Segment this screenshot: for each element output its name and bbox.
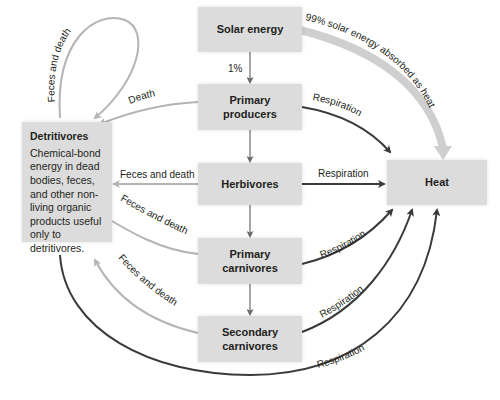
label-producers-respiration: Respiration bbox=[312, 91, 364, 118]
node-secondary-carnivores: Secondarycarnivores bbox=[198, 316, 302, 362]
label-primary-carnivores-respiration: Respiration bbox=[318, 228, 367, 260]
label-herbivores-feces: Feces and death bbox=[120, 169, 195, 180]
label-death: Death bbox=[127, 87, 156, 105]
death-arrow bbox=[100, 102, 198, 124]
node-primary-carnivores: Primarycarnivores bbox=[198, 238, 302, 284]
node-label: Primaryproducers bbox=[223, 93, 277, 122]
label-secondary-carnivores-respiration: Respiration bbox=[318, 283, 366, 320]
detritivores-title: Detritivores bbox=[30, 130, 104, 144]
solar-to-heat-arrowhead bbox=[434, 146, 452, 160]
node-detritivores: Detritivores Chemical-bond energy in dea… bbox=[22, 122, 112, 242]
node-solar-energy: Solar energy bbox=[198, 7, 302, 52]
node-label: Herbivores bbox=[221, 177, 278, 191]
label-primary-carnivores-feces: Feces and death bbox=[119, 192, 190, 236]
node-primary-producers: Primaryproducers bbox=[198, 84, 302, 130]
node-heat: Heat bbox=[387, 160, 487, 205]
label-one-percent: 1% bbox=[228, 63, 243, 74]
detritivores-description: Chemical-bond energy in dead bodies, fec… bbox=[30, 147, 104, 256]
label-detritivores-respiration: Respiration bbox=[316, 342, 366, 370]
node-label: Heat bbox=[425, 175, 449, 189]
node-label: Primarycarnivores bbox=[222, 247, 278, 276]
node-label: Secondarycarnivores bbox=[222, 325, 278, 354]
node-herbivores: Herbivores bbox=[198, 163, 302, 205]
node-label: Solar energy bbox=[217, 22, 284, 36]
secondary-carnivores-feces-arrow bbox=[95, 260, 198, 333]
producers-respiration-arrow bbox=[302, 107, 390, 152]
label-herbivores-respiration: Respiration bbox=[318, 168, 369, 179]
